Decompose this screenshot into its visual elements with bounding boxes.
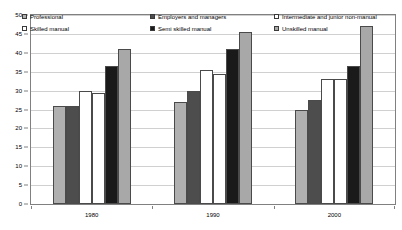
x-tick-label: 1980 bbox=[85, 212, 98, 218]
bar bbox=[200, 70, 213, 204]
bar bbox=[118, 49, 131, 204]
y-tick-mark bbox=[24, 90, 28, 91]
bar bbox=[239, 32, 252, 204]
bars-layer bbox=[31, 15, 395, 204]
bar-group bbox=[274, 15, 395, 204]
y-tick-label: 45 bbox=[15, 31, 22, 37]
legend-item-label: Professional bbox=[30, 14, 63, 20]
legend-column-1: Professional Skilled manual bbox=[22, 12, 150, 33]
x-tick-mark bbox=[274, 206, 275, 209]
y-tick-label: 40 bbox=[15, 50, 22, 56]
y-tick-label: 50 bbox=[15, 12, 22, 18]
bar-chart: 05101520253035404550 198019902000 Profes… bbox=[0, 0, 402, 230]
y-tick-label: 5 bbox=[19, 182, 22, 188]
y-tick-label: 15 bbox=[15, 144, 22, 150]
bar bbox=[66, 106, 79, 204]
chart-legend: Professional Skilled manual Employers an… bbox=[22, 12, 394, 38]
x-tick-label: 1990 bbox=[206, 212, 219, 218]
legend-item-label: Semi skilled manual bbox=[158, 26, 211, 32]
legend-item-label: Skilled manual bbox=[30, 26, 69, 32]
bar bbox=[321, 79, 334, 204]
bar bbox=[360, 26, 373, 204]
legend-swatch-icon bbox=[150, 14, 155, 19]
bar bbox=[53, 106, 66, 204]
legend-item-label: Intermediate and junior non-manual bbox=[282, 14, 377, 20]
x-tick-mark bbox=[394, 206, 395, 209]
bar bbox=[105, 66, 118, 204]
bar bbox=[308, 100, 321, 204]
legend-swatch-icon bbox=[274, 26, 279, 31]
bar bbox=[79, 91, 92, 204]
legend-item: Semi skilled manual bbox=[150, 24, 274, 33]
bar-group bbox=[31, 15, 152, 204]
y-tick-label: 25 bbox=[15, 107, 22, 113]
y-tick-label: 30 bbox=[15, 88, 22, 94]
y-tick-mark bbox=[24, 166, 28, 167]
legend-item: Employers and managers bbox=[150, 12, 274, 21]
legend-swatch-icon bbox=[150, 26, 155, 31]
legend-swatch-icon bbox=[22, 14, 27, 19]
bar bbox=[226, 49, 239, 204]
legend-item: Skilled manual bbox=[22, 24, 150, 33]
y-tick-label: 10 bbox=[15, 163, 22, 169]
y-axis: 05101520253035404550 bbox=[0, 14, 28, 205]
bar bbox=[334, 79, 347, 204]
y-tick-label: 20 bbox=[15, 125, 22, 131]
legend-item: Professional bbox=[22, 12, 150, 21]
y-tick-mark bbox=[24, 185, 28, 186]
bar bbox=[347, 66, 360, 204]
legend-swatch-icon bbox=[274, 14, 279, 19]
x-axis: 198019902000 bbox=[31, 206, 395, 226]
legend-item-label: Unskilled manual bbox=[282, 26, 328, 32]
x-tick-label: 2000 bbox=[328, 212, 341, 218]
y-tick-mark bbox=[24, 109, 28, 110]
x-tick-mark bbox=[152, 206, 153, 209]
bar bbox=[187, 91, 200, 204]
legend-column-3: Intermediate and junior non-manual Unski… bbox=[274, 12, 394, 33]
bar bbox=[174, 102, 187, 204]
y-tick-mark bbox=[24, 52, 28, 53]
legend-column-2: Employers and managers Semi skilled manu… bbox=[150, 12, 274, 33]
bar bbox=[295, 110, 308, 205]
y-tick-label: 0 bbox=[19, 201, 22, 207]
legend-item: Intermediate and junior non-manual bbox=[274, 12, 394, 21]
legend-item: Unskilled manual bbox=[274, 24, 394, 33]
legend-swatch-icon bbox=[22, 26, 27, 31]
y-tick-mark bbox=[24, 128, 28, 129]
bar bbox=[213, 74, 226, 204]
bar bbox=[92, 93, 105, 205]
y-tick-mark bbox=[24, 204, 28, 205]
x-tick-mark bbox=[31, 206, 32, 209]
y-tick-mark bbox=[24, 147, 28, 148]
bar-group bbox=[152, 15, 273, 204]
y-tick-label: 35 bbox=[15, 69, 22, 75]
y-tick-mark bbox=[24, 71, 28, 72]
legend-item-label: Employers and managers bbox=[158, 14, 226, 20]
